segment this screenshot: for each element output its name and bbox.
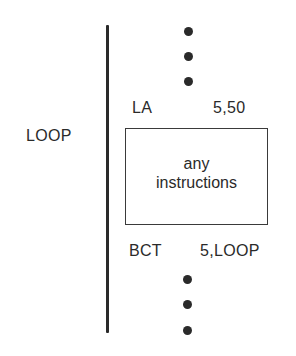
ellipsis-dot-icon (183, 300, 192, 309)
bct-opcode: BCT (129, 242, 162, 260)
ellipsis-dot-icon (184, 77, 193, 86)
loop-label: LOOP (26, 127, 72, 145)
instructions-box: any instructions (125, 128, 268, 225)
ellipsis-dot-icon (183, 275, 192, 284)
box-line-1: any (126, 154, 267, 173)
ellipsis-dot-icon (184, 27, 193, 36)
box-line-2: instructions (126, 173, 267, 192)
la-operands: 5,50 (213, 99, 245, 117)
la-opcode: LA (132, 99, 152, 117)
bct-operands: 5,LOOP (200, 242, 260, 260)
loop-extent-bar (106, 25, 109, 333)
ellipsis-dot-icon (183, 326, 192, 335)
ellipsis-dot-icon (184, 52, 193, 61)
